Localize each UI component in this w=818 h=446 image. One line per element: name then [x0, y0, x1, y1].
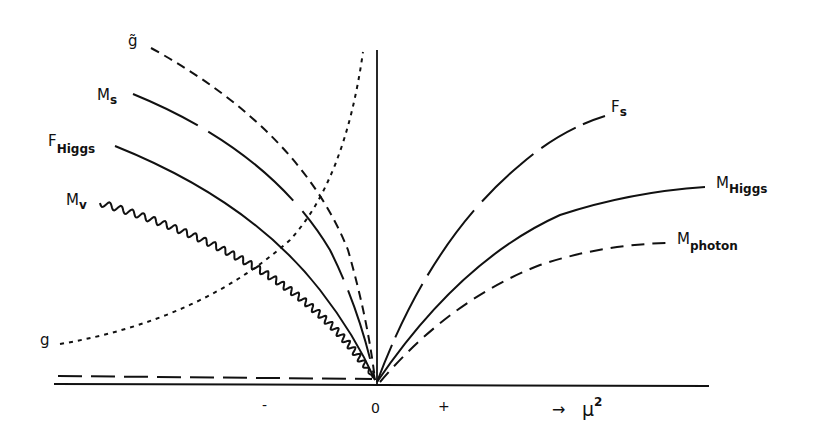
curve-m-v: [100, 202, 373, 378]
curve-g-tilde: [151, 48, 375, 380]
label-m-v: Mv: [66, 191, 87, 212]
curve-m-s: [133, 94, 375, 380]
label-g-tilde: g̃: [128, 32, 138, 50]
label-f-s: Fs: [611, 98, 627, 119]
curve-m-photon: [380, 243, 666, 382]
curve-m-photon-negative: [58, 376, 372, 379]
label-f-higgs: FHiggs: [48, 132, 95, 156]
label-m-s: Ms: [97, 86, 117, 107]
tick-zero: 0: [371, 400, 380, 416]
label-g: g: [40, 331, 50, 349]
x-axis-label: μ2: [582, 395, 602, 420]
label-m-higgs: MHiggs: [716, 174, 767, 196]
curve-f-s: [377, 116, 605, 382]
x-axis-arrow: →: [552, 400, 565, 419]
x-axis: [54, 384, 709, 386]
curve-m-higgs: [377, 187, 705, 382]
tick-minus: -: [262, 397, 267, 413]
label-m-photon: Mphoton: [677, 230, 738, 253]
tick-plus: +: [438, 398, 450, 414]
phase-diagram: g̃ Ms FHiggs Mv g Fs MHiggs Mphoton - 0 …: [0, 0, 818, 446]
